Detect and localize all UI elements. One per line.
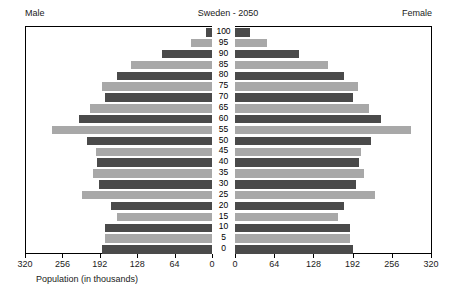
population-pyramid-chart: Male Sweden - 2050 Female 10095908580757…	[0, 0, 456, 295]
tick-mark	[212, 254, 213, 258]
tick-mark	[175, 254, 176, 258]
age-label-50: 50	[212, 136, 235, 145]
bar-male-age-10	[105, 224, 213, 232]
age-label-20: 20	[212, 201, 235, 210]
tick-label-256: 256	[55, 259, 70, 269]
table-row	[26, 212, 213, 223]
table-row	[26, 60, 213, 71]
table-row	[26, 157, 213, 168]
bar-female-age-85	[235, 61, 328, 69]
table-row	[235, 190, 431, 201]
bar-male-age-30	[99, 180, 213, 188]
table-row	[26, 146, 213, 157]
bar-female-age-95	[235, 39, 267, 47]
age-label-15: 15	[212, 212, 235, 221]
age-label-95: 95	[212, 38, 235, 47]
bar-male-age-0	[102, 245, 213, 253]
table-row	[235, 92, 431, 103]
bar-male-age-25	[82, 191, 213, 199]
tick-mark	[431, 254, 432, 258]
tick-label-128: 128	[130, 259, 145, 269]
age-label-0: 0	[212, 244, 235, 253]
bar-male-age-15	[117, 213, 213, 221]
bar-male-age-45	[96, 148, 213, 156]
bar-male-age-20	[111, 202, 213, 210]
age-label-65: 65	[212, 103, 235, 112]
table-row	[235, 244, 431, 255]
x-axis-caption: Population (in thousands)	[36, 274, 138, 284]
table-row	[26, 49, 213, 60]
table-row	[26, 27, 213, 38]
tick-label-0: 0	[209, 259, 214, 269]
age-label-60: 60	[212, 114, 235, 123]
table-row	[235, 146, 431, 157]
bar-male-age-85	[131, 61, 213, 69]
table-row	[235, 168, 431, 179]
table-row	[235, 81, 431, 92]
table-row	[235, 212, 431, 223]
bar-male-age-70	[105, 93, 213, 101]
table-row	[26, 179, 213, 190]
age-label-30: 30	[212, 179, 235, 188]
bar-female-age-75	[235, 82, 358, 90]
tick-mark	[313, 254, 314, 258]
bar-female-age-10	[235, 224, 350, 232]
female-bars-panel	[235, 27, 431, 253]
table-row	[26, 222, 213, 233]
age-label-90: 90	[212, 49, 235, 58]
bar-female-age-35	[235, 169, 364, 177]
tick-label-320: 320	[17, 259, 32, 269]
table-row	[235, 125, 431, 136]
tick-mark	[137, 254, 138, 258]
bar-female-age-5	[235, 234, 350, 242]
age-label-5: 5	[212, 233, 235, 242]
bar-female-age-80	[235, 72, 344, 80]
male-bars-panel	[26, 27, 213, 253]
tick-label-64: 64	[269, 259, 279, 269]
table-row	[26, 233, 213, 244]
table-row	[235, 157, 431, 168]
table-row	[235, 49, 431, 60]
table-row	[235, 233, 431, 244]
tick-label-128: 128	[306, 259, 321, 269]
age-label-100: 100	[212, 27, 235, 36]
table-row	[26, 114, 213, 125]
age-label-85: 85	[212, 60, 235, 69]
table-row	[26, 38, 213, 49]
tick-label-192: 192	[92, 259, 107, 269]
tick-label-256: 256	[384, 259, 399, 269]
table-row	[235, 179, 431, 190]
tick-mark	[353, 254, 354, 258]
female-axis-header: Female	[402, 8, 432, 18]
bar-male-age-90	[162, 50, 213, 58]
age-label-45: 45	[212, 146, 235, 155]
tick-label-0: 0	[232, 259, 237, 269]
bar-male-age-40	[97, 158, 213, 166]
table-row	[235, 114, 431, 125]
tick-mark	[274, 254, 275, 258]
age-axis-labels: 1009590858075706560555045403530252015105…	[212, 26, 235, 254]
tick-mark	[62, 254, 63, 258]
table-row	[26, 190, 213, 201]
tick-mark	[392, 254, 393, 258]
bar-male-age-55	[52, 126, 213, 134]
bar-female-age-70	[235, 93, 353, 101]
bar-male-age-50	[87, 137, 213, 145]
table-row	[26, 136, 213, 147]
bar-female-age-25	[235, 191, 375, 199]
tick-label-64: 64	[170, 259, 180, 269]
bar-male-age-95	[191, 39, 213, 47]
table-row	[235, 38, 431, 49]
table-row	[235, 136, 431, 147]
bar-female-age-15	[235, 213, 338, 221]
bar-female-age-30	[235, 180, 356, 188]
tick-label-320: 320	[423, 259, 438, 269]
bar-female-age-20	[235, 202, 344, 210]
bar-female-age-60	[235, 115, 381, 123]
table-row	[26, 168, 213, 179]
bar-male-age-60	[79, 115, 213, 123]
age-label-70: 70	[212, 92, 235, 101]
bar-female-age-90	[235, 50, 299, 58]
bar-female-age-0	[235, 245, 353, 253]
tick-mark	[100, 254, 101, 258]
